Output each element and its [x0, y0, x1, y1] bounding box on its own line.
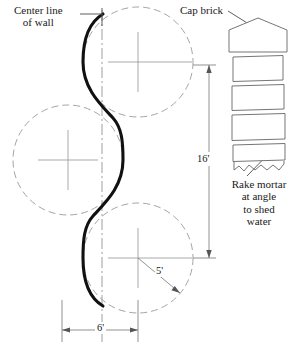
brick-course-4 — [233, 144, 285, 162]
diagram-canvas: Center line of wall Cap brick Rake morta… — [0, 0, 293, 348]
cap-brick-label: Cap brick — [180, 4, 223, 16]
dimension-6-label: 6' — [95, 322, 106, 334]
broken-edge — [234, 161, 284, 171]
dim16-arrow-bottom — [206, 250, 211, 258]
dimension-5-label: 5' — [155, 265, 164, 277]
center-crosshairs — [38, 32, 192, 288]
dim6-arrow-right — [130, 327, 138, 332]
rake-mortar-label: Rake mortar at angle to shed water — [226, 178, 292, 227]
dimension-16-label: 16' — [196, 152, 210, 166]
brick-course-2 — [232, 85, 284, 111]
horizontal-dimension-6 — [62, 300, 138, 342]
dim16-arrow-top — [206, 65, 211, 73]
center-line-label: Center line of wall — [14, 4, 63, 29]
brick-course-3 — [232, 114, 285, 141]
brick-course-1 — [233, 56, 283, 82]
cap-brick-shape — [229, 18, 287, 52]
diagram-svg — [0, 0, 293, 348]
dim6-arrow-left — [62, 327, 70, 332]
brick-column — [229, 18, 287, 171]
